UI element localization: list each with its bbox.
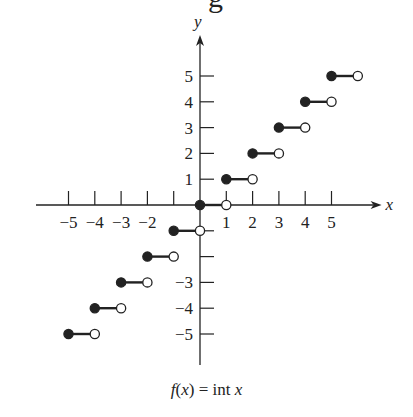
closed-dot-icon [222,175,231,184]
closed-dot-icon [117,278,126,287]
open-dot-icon [169,252,178,261]
closed-dot-icon [195,200,204,209]
closed-dot-icon [327,71,336,80]
closed-dot-icon [248,149,257,158]
y-tick-label: 1 [185,170,194,189]
closed-dot-icon [64,329,73,338]
open-dot-icon [90,329,99,338]
y-tick-label: 3 [185,119,194,138]
open-dot-icon [274,149,283,158]
x-tick-label: −5 [59,213,77,232]
open-dot-icon [222,200,231,209]
y-tick-label: 2 [185,144,194,163]
open-dot-icon [143,278,152,287]
y-tick-label: 5 [185,67,194,86]
closed-dot-icon [274,123,283,132]
open-dot-icon [327,97,336,106]
open-dot-icon [301,123,310,132]
caption-rest: ) = int [189,380,235,399]
x-tick-label: 5 [327,213,336,232]
closed-dot-icon [169,226,178,235]
caption-x2: x [235,380,243,399]
function-caption: f(x) = int x [0,380,413,400]
open-dot-icon [248,175,257,184]
y-axis-label: y [192,12,202,31]
x-tick-label: 3 [275,213,284,232]
x-tick-label: 4 [301,213,310,232]
x-axis-label: x [385,195,394,214]
open-dot-icon [117,304,126,313]
x-tick-label: 1 [222,213,231,232]
caption-x1: x [181,380,189,399]
closed-dot-icon [301,97,310,106]
y-tick-label: 4 [185,93,194,112]
step-function-plot: xy−5−4−3−212345−5−4−312345 [0,0,413,380]
x-tick-label: −4 [86,213,105,232]
y-tick-label: −3 [175,273,193,292]
open-dot-icon [353,71,362,80]
x-tick-label: 2 [248,213,257,232]
closed-dot-icon [90,304,99,313]
x-tick-label: −3 [112,213,130,232]
y-tick-label: −4 [175,299,194,318]
closed-dot-icon [143,252,152,261]
x-tick-label: −2 [138,213,156,232]
open-dot-icon [195,226,204,235]
y-tick-label: −5 [175,325,193,344]
